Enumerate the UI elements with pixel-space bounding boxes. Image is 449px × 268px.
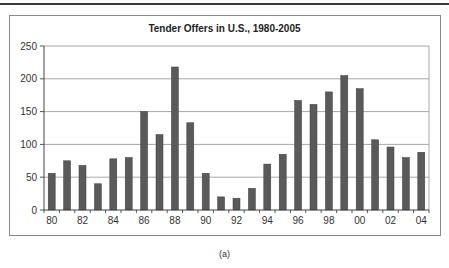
bars bbox=[48, 67, 425, 210]
bar-91 bbox=[218, 197, 225, 210]
bar-81 bbox=[64, 161, 71, 210]
bar-95 bbox=[279, 154, 286, 210]
x-tick-label: 02 bbox=[385, 215, 397, 226]
bar-80 bbox=[48, 173, 55, 210]
bar-chart-plot: 050100150200250 808284868890929496980002… bbox=[0, 0, 449, 268]
bar-89 bbox=[187, 123, 194, 210]
y-tick-label: 100 bbox=[20, 139, 37, 150]
y-axis-labels: 050100150200250 bbox=[20, 41, 37, 216]
bar-01 bbox=[372, 140, 379, 210]
bar-98 bbox=[325, 92, 332, 210]
x-tick-label: 80 bbox=[46, 215, 58, 226]
bar-96 bbox=[295, 100, 302, 210]
x-tick-label: 86 bbox=[139, 215, 151, 226]
x-tick-label: 84 bbox=[108, 215, 120, 226]
bar-88 bbox=[171, 67, 178, 210]
y-tick-label: 0 bbox=[31, 205, 37, 216]
bar-99 bbox=[341, 76, 348, 210]
y-tick-label: 150 bbox=[20, 106, 37, 117]
bar-92 bbox=[233, 198, 240, 210]
y-tick-label: 50 bbox=[26, 172, 38, 183]
bar-83 bbox=[94, 184, 101, 210]
bar-85 bbox=[125, 158, 132, 210]
x-axis-labels: 80828486889092949698000204 bbox=[46, 215, 427, 226]
bar-84 bbox=[110, 159, 117, 210]
bar-00 bbox=[356, 89, 363, 210]
x-tick-label: 96 bbox=[293, 215, 305, 226]
bar-03 bbox=[402, 158, 409, 210]
bar-93 bbox=[248, 188, 255, 210]
bar-90 bbox=[202, 173, 209, 210]
bar-97 bbox=[310, 104, 317, 210]
x-tick-label: 82 bbox=[77, 215, 89, 226]
x-tick-label: 90 bbox=[200, 215, 212, 226]
x-tick-label: 92 bbox=[231, 215, 243, 226]
x-tick-label: 04 bbox=[416, 215, 428, 226]
y-tick-label: 200 bbox=[20, 73, 37, 84]
figure-caption: (a) bbox=[0, 249, 449, 259]
x-tick-label: 00 bbox=[354, 215, 366, 226]
bar-82 bbox=[79, 165, 86, 210]
gridlines bbox=[44, 46, 429, 210]
bar-04 bbox=[418, 152, 425, 210]
bar-86 bbox=[141, 112, 148, 210]
bar-94 bbox=[264, 164, 271, 210]
bar-02 bbox=[387, 147, 394, 210]
x-tick-label: 88 bbox=[169, 215, 181, 226]
x-tick-label: 94 bbox=[262, 215, 274, 226]
x-tick-label: 98 bbox=[323, 215, 335, 226]
y-tick-label: 250 bbox=[20, 41, 37, 52]
bar-87 bbox=[156, 135, 163, 210]
